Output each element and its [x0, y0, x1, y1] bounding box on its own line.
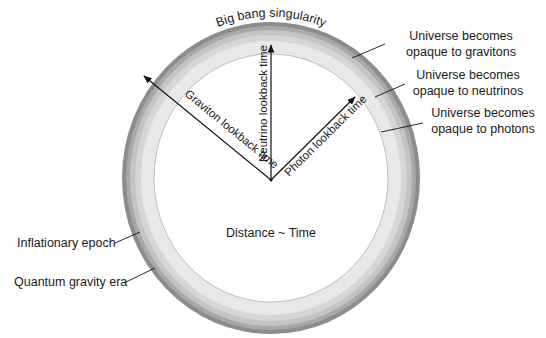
- neutrino-opaque-label-line2: opaque to neutrinos: [413, 84, 524, 98]
- quantum-gravity-callout-line: [126, 268, 155, 282]
- cosmic-lookback-diagram: Graviton lookback time Neutrino lookback…: [0, 0, 546, 338]
- left-callouts: Inflationary epoch Quantum gravity era: [14, 232, 155, 289]
- graviton-opaque-label-line1: Universe becomes: [409, 29, 513, 43]
- center-point: [270, 179, 273, 182]
- neutrino-lookback-label: Neutrino lookback time: [257, 45, 269, 162]
- graviton-opaque-label-line2: opaque to gravitons: [406, 45, 516, 59]
- quantum-gravity-era-label: Quantum gravity era: [14, 275, 127, 289]
- photon-opaque-label-line2: opaque to photons: [431, 122, 535, 136]
- distance-time-label: Distance ~ Time: [226, 226, 316, 240]
- neutrino-opaque-label-line1: Universe becomes: [416, 68, 520, 82]
- inflationary-epoch-label: Inflationary epoch: [17, 236, 116, 250]
- photon-opaque-label-line1: Universe becomes: [431, 106, 535, 120]
